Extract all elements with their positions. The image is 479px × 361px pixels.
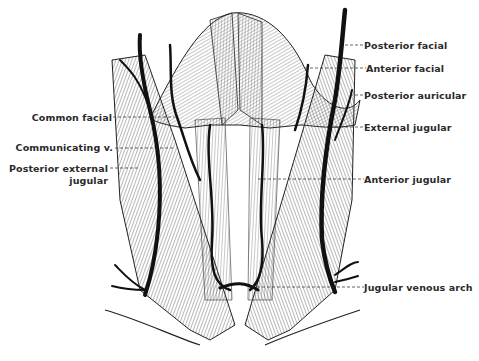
label-common-facial: Common facial <box>32 112 112 123</box>
label-anterior-jugular: Anterior jugular <box>364 174 451 185</box>
label-posterior-facial: Posterior facial <box>364 40 447 51</box>
label-posterior-external-jugular: Posterior external <box>9 163 108 174</box>
label-communicating-v: Communicating v. <box>16 142 113 153</box>
label-anterior-facial: Anterior facial <box>366 63 444 74</box>
label-posterior-external-jugular-line2: jugular <box>69 175 108 186</box>
label-external-jugular: External jugular <box>364 122 452 133</box>
label-jugular-venous-arch: Jugular venous arch <box>364 282 473 293</box>
clavicle-outline <box>105 310 360 345</box>
label-posterior-auricular: Posterior auricular <box>364 90 466 101</box>
